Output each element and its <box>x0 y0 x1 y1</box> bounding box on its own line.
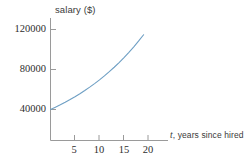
chart-figure: salary ($) t, years since hired 120000 8… <box>0 0 248 165</box>
salary-curve <box>51 35 144 110</box>
plot-area <box>0 0 248 165</box>
